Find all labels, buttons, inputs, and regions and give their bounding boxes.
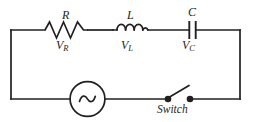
capacitor-plates-icon [189,21,195,39]
resistor-voltage-sub: R [63,43,68,53]
ac-source-icon [70,82,105,117]
inductor-coil-icon [113,24,148,30]
resistor-zigzag-icon [45,22,88,38]
inductor-label: L [127,9,134,21]
inductor-voltage-sub: L [128,43,133,53]
resistor-voltage-label: VR [56,39,69,52]
switch-lever[interactable] [168,86,190,99]
inductor-voltage-label: VL [121,39,133,52]
switch-label: Switch [157,104,188,116]
resistor-label: R [62,9,69,21]
capacitor-voltage-sub: C [189,43,195,53]
capacitor-label: C [188,6,196,18]
capacitor-voltage-label: VC [182,39,195,52]
circuit-diagram: R VR L VL C VC Switch [0,0,255,122]
switch-terminal-right [187,96,194,103]
open-switch-icon[interactable] [165,86,194,103]
